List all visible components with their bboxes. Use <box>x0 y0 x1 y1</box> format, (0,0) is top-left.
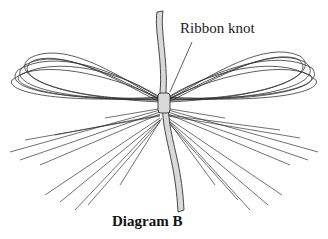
diagram-b: Ribbon knot Diagram B <box>0 0 328 239</box>
left-loops <box>11 53 160 102</box>
right-loops <box>168 52 316 102</box>
callout-leader-line <box>170 42 192 92</box>
ribbon-knot <box>158 93 170 113</box>
ribbon-knot-label: Ribbon knot <box>180 20 255 37</box>
diagram-caption: Diagram B <box>112 213 182 230</box>
bow-illustration <box>0 0 328 239</box>
